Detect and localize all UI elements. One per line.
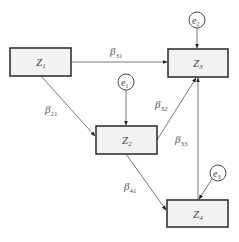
- label-b32-sub: 32: [160, 105, 168, 113]
- label-b31-sub: 31: [115, 52, 123, 60]
- label-b21-sub: 21: [50, 110, 58, 118]
- label-b21: β21: [44, 103, 58, 118]
- error-e2: e2: [189, 12, 205, 28]
- node-z4-sub: 4: [199, 214, 203, 222]
- error-e1: e1: [118, 74, 134, 90]
- edge-e3-z4: [199, 179, 212, 199]
- label-b31: β31: [109, 45, 123, 60]
- error-e3: e3: [210, 165, 226, 181]
- edge-z2-z4: [126, 154, 166, 210]
- label-b41: β41: [123, 180, 137, 195]
- node-z2-sub: 2: [128, 140, 132, 148]
- error-e2-sub: 2: [196, 21, 199, 27]
- node-z1-sub: 1: [42, 62, 46, 70]
- node-z1: Z1: [10, 48, 71, 76]
- node-z3: Z3: [168, 49, 228, 77]
- error-e1-sub: 1: [125, 83, 128, 89]
- label-b41-sub: 41: [129, 187, 137, 195]
- node-z4: Z4: [167, 200, 228, 227]
- node-z2: Z2: [96, 126, 157, 154]
- label-b32: β32: [154, 98, 168, 113]
- node-z3-sub: 3: [198, 63, 203, 71]
- label-b33: β33: [174, 133, 188, 148]
- label-b33-sub: 33: [180, 140, 188, 148]
- path-diagram: Z1 Z2 Z3 Z4 e1 e2 e3 β31 β21 β32 β33 β41: [0, 0, 239, 242]
- error-e3-sub: 3: [217, 174, 220, 180]
